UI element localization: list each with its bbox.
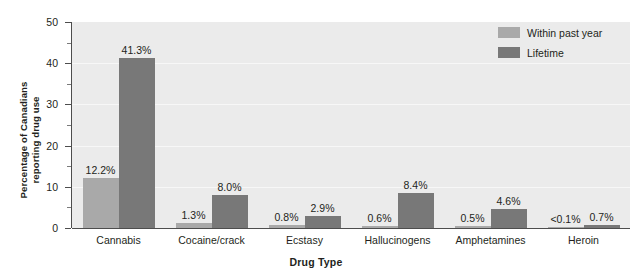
bar-past-year[interactable]	[455, 226, 491, 228]
bar-lifetime[interactable]	[305, 216, 341, 228]
y-axis-tick-mark	[65, 104, 71, 105]
legend-label: Within past year	[527, 27, 602, 39]
legend-item[interactable]: Within past year	[498, 24, 602, 41]
y-axis-tick-label: 50	[36, 16, 58, 28]
bar-lifetime[interactable]	[584, 225, 620, 228]
bar-value-label: 1.3%	[182, 209, 206, 221]
y-axis-tick-mark	[65, 146, 71, 147]
y-axis-tick-mark	[65, 187, 71, 188]
y-axis-tick-labels: 01020304050	[30, 0, 58, 279]
chart-legend: Within past yearLifetime	[498, 24, 602, 64]
x-axis-line	[72, 228, 630, 229]
bar-value-label: <0.1%	[550, 213, 580, 225]
legend-swatch-lifetime	[498, 47, 520, 58]
y-axis-tick-label: 40	[36, 57, 58, 69]
bar-value-label: 8.4%	[404, 179, 428, 191]
bar-past-year[interactable]	[269, 225, 305, 228]
bar-past-year[interactable]	[548, 227, 584, 228]
bar-value-label: 0.8%	[275, 211, 299, 223]
x-axis-category-label: Heroin	[568, 234, 599, 246]
bar-value-label: 2.9%	[311, 202, 335, 214]
bar-past-year[interactable]	[176, 223, 212, 228]
y-axis-tick-label: 10	[36, 181, 58, 193]
y-axis-tick-mark	[65, 228, 71, 229]
bar-lifetime[interactable]	[398, 193, 434, 228]
y-axis-minor-tick-mark	[67, 166, 71, 167]
legend-label: Lifetime	[527, 47, 564, 59]
x-axis-category-label: Ecstasy	[286, 234, 323, 246]
bar-value-label: 12.2%	[86, 164, 116, 176]
bar-past-year[interactable]	[83, 178, 119, 228]
bar-value-label: 4.6%	[497, 195, 521, 207]
x-axis-category-label: Cocaine/crack	[178, 234, 245, 246]
legend-swatch-past-year	[498, 27, 520, 38]
y-axis-minor-tick-mark	[67, 207, 71, 208]
bar-past-year[interactable]	[362, 226, 398, 228]
bar-lifetime[interactable]	[491, 209, 527, 228]
x-axis-category-label: Hallucinogens	[365, 234, 431, 246]
x-axis-category-label: Amphetamines	[455, 234, 525, 246]
bar-value-label: 0.7%	[590, 211, 614, 223]
bar-value-label: 8.0%	[218, 181, 242, 193]
y-axis-minor-tick-mark	[67, 84, 71, 85]
bar-lifetime[interactable]	[119, 58, 155, 228]
x-axis-title: Drug Type	[0, 256, 632, 268]
y-axis-tick-mark	[65, 22, 71, 23]
bar-chart: Percentage of Canadians reporting drug u…	[0, 0, 632, 279]
y-axis-minor-tick-mark	[67, 43, 71, 44]
bar-value-label: 0.5%	[461, 212, 485, 224]
y-axis-title-line-1: Percentage of Canadians	[18, 35, 30, 245]
y-axis-tick-label: 0	[36, 222, 58, 234]
legend-item[interactable]: Lifetime	[498, 44, 602, 61]
bar-value-label: 41.3%	[122, 44, 152, 56]
y-axis-minor-tick-mark	[67, 125, 71, 126]
bar-lifetime[interactable]	[212, 195, 248, 228]
y-axis-tick-label: 20	[36, 140, 58, 152]
y-axis-tick-label: 30	[36, 98, 58, 110]
bar-value-label: 0.6%	[368, 212, 392, 224]
y-axis-tick-mark	[65, 63, 71, 64]
x-axis-category-label: Cannabis	[96, 234, 140, 246]
